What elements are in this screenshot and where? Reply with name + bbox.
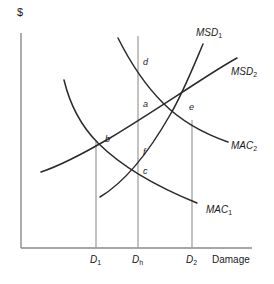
point-label-b: b (105, 135, 110, 144)
curve-label-mac2-sub: 2 (253, 145, 257, 152)
y-axis-unit-label: $ (17, 7, 23, 18)
curve-mac1 (64, 80, 197, 203)
curves (41, 38, 237, 203)
point-label-c: c (143, 167, 148, 176)
curve-label-mac1: MAC1 (206, 205, 232, 215)
x-tick-d1: D1 (90, 255, 101, 265)
point-label-f: f (143, 148, 146, 157)
curve-label-msd2-sub: 2 (253, 71, 257, 78)
x-tick-d2-sub: 2 (193, 259, 197, 266)
curve-label-msd1-sub: 1 (218, 32, 222, 39)
axes (21, 33, 252, 248)
x-tick-dh-sub: h (139, 259, 143, 266)
curve-mac2 (118, 38, 228, 142)
curve-label-msd1-text: MSD (196, 27, 218, 38)
drop-lines (96, 36, 192, 248)
point-label-a: a (143, 100, 148, 109)
point-label-d: d (143, 58, 148, 67)
curve-label-mac1-text: MAC (206, 204, 228, 215)
curve-label-msd2-text: MSD (231, 66, 253, 77)
x-tick-d1-sub: 1 (97, 259, 101, 266)
x-tick-d2: D2 (186, 255, 197, 265)
curve-label-msd2: MSD2 (231, 67, 257, 77)
x-tick-dh: Dh (132, 255, 143, 265)
point-label-e: e (189, 103, 194, 112)
curve-label-msd1: MSD1 (196, 28, 222, 38)
curve-label-mac2-text: MAC (231, 140, 253, 151)
x-axis-title: Damage (212, 255, 250, 265)
curve-msd1 (100, 44, 203, 197)
economics-diagram: $ Damage D1 Dh D2 MSD1 MSD2 MAC2 MAC1 d … (0, 0, 274, 284)
curve-label-mac1-sub: 1 (228, 209, 232, 216)
curve-label-mac2: MAC2 (231, 141, 257, 151)
